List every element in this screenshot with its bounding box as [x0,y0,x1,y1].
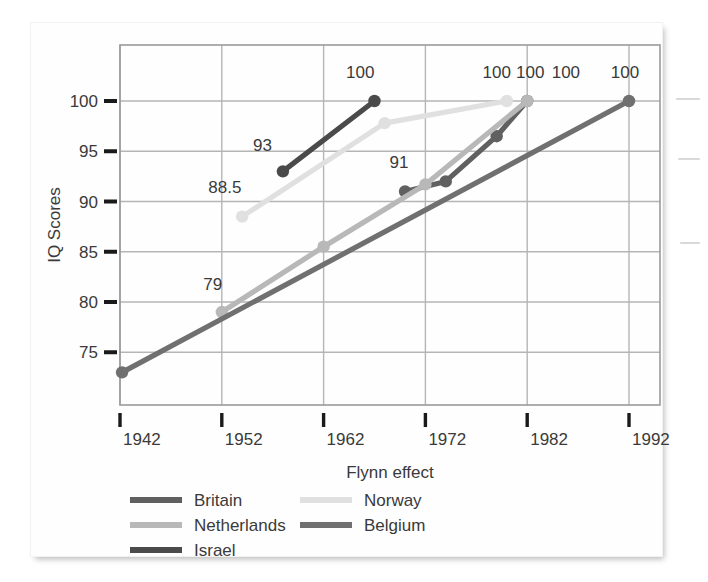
legend-item-norway[interactable]: Norway [300,491,422,510]
series-belgium [116,95,635,379]
legend-item-belgium[interactable]: Belgium [300,516,425,535]
data-point-label: 100 [482,63,510,82]
data-point [521,95,533,107]
x-axis-title: Flynn effect [346,463,434,482]
tick-marks [104,101,629,427]
data-point-label: 100 [346,63,374,82]
data-point [440,175,452,187]
x-tick-label: 1962 [327,430,365,449]
legend-label: Britain [194,491,242,510]
data-point [368,95,380,107]
data-point [419,178,431,190]
plot-border [120,45,660,405]
data-point-label: 88.5 [208,178,241,197]
data-point [277,165,289,177]
series-line [122,101,629,372]
data-point [317,241,329,253]
y-tick-label: 90 [79,193,98,212]
grid-lines [120,45,660,405]
y-tick-label: 80 [79,293,98,312]
legend-item-netherlands[interactable]: Netherlands [130,516,286,535]
data-point [623,95,635,107]
chart-legend: BritainNetherlandsIsraelNorwayBelgium [130,491,425,560]
y-tick-label: 95 [79,142,98,161]
y-tick-label: 75 [79,343,98,362]
data-point [501,95,513,107]
legend-label: Netherlands [194,516,286,535]
data-point-label: 79 [203,275,222,294]
data-point [236,210,248,222]
legend-label: Israel [194,541,236,560]
data-point-label: 100 [611,63,639,82]
x-tick-label: 1982 [530,430,568,449]
data-point [378,117,390,129]
flynn-effect-chart: 1009590858075194219521962197219821992 10… [0,0,708,582]
x-tick-label: 1992 [632,430,670,449]
data-point-label: 100 [552,63,580,82]
y-tick-label: 85 [79,243,98,262]
data-point-label: 100 [516,63,544,82]
data-point-label: 91 [389,153,408,172]
plot-frame [120,45,660,405]
x-tick-label: 1972 [428,430,466,449]
legend-label: Belgium [364,516,425,535]
chart-svg: 1009590858075194219521962197219821992 10… [0,0,708,582]
scanned-page: 1009590858075194219521962197219821992 10… [0,0,708,582]
x-tick-label: 1952 [225,430,263,449]
legend-item-britain[interactable]: Britain [130,491,242,510]
data-point-labels: 1009388.59179100100100100 [203,63,639,294]
legend-item-israel[interactable]: Israel [130,541,236,560]
legend-label: Norway [364,491,422,510]
x-tick-label: 1942 [123,430,161,449]
y-tick-label: 100 [70,92,98,111]
data-point-label: 93 [253,136,272,155]
data-point [116,366,128,378]
series-line [242,101,507,217]
y-axis-title: IQ Scores [45,187,64,263]
data-series [116,95,635,379]
tick-labels: 1009590858075194219521962197219821992 [70,92,670,449]
